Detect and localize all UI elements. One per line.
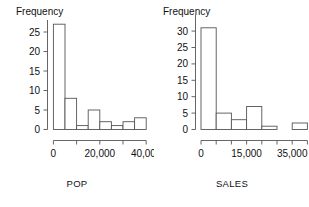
- plot-area-pop: 0 5 10 15 20 25: [0, 0, 154, 170]
- histogram-bar: [77, 126, 89, 130]
- x-axis-ticks-pop: [53, 141, 146, 145]
- y-tick-label: 20: [29, 46, 41, 57]
- x-tick-label: 15,000: [231, 148, 262, 159]
- x-tick-label: 0: [51, 148, 57, 159]
- histogram-bars-pop: [53, 24, 146, 129]
- x-axis-tick-labels-pop: 0 20,000 40,000: [51, 148, 154, 159]
- histogram-bar: [111, 126, 123, 130]
- histogram-bar: [100, 122, 112, 130]
- x-tick-label: 40,000: [131, 148, 154, 159]
- x-tick-label: 35,000: [277, 148, 308, 159]
- histogram-bars-sales: [201, 28, 307, 130]
- x-axis-title-pop: POP: [0, 178, 154, 189]
- y-tick-label: 10: [177, 91, 189, 102]
- histogram-bar: [53, 24, 65, 129]
- y-tick-label: 0: [34, 124, 40, 135]
- y-tick-label: 15: [29, 66, 41, 77]
- x-axis-ticks-sales: [201, 141, 307, 145]
- x-tick-label: 0: [198, 148, 204, 159]
- histogram-bar: [262, 126, 277, 129]
- y-tick-label: 0: [182, 124, 188, 135]
- y-axis-tick-labels-pop: 0 5 10 15 20 25: [29, 27, 41, 136]
- y-tick-label: 10: [29, 85, 41, 96]
- histogram-bar: [292, 123, 307, 130]
- y-tick-label: 30: [177, 26, 189, 37]
- y-tick-label: 5: [34, 105, 40, 116]
- histogram-bar: [247, 107, 262, 130]
- y-axis-ticks-pop: [44, 32, 48, 130]
- histogram-bar: [65, 98, 77, 129]
- histogram-bar: [135, 118, 147, 130]
- y-axis-tick-labels-sales: 0 5 10 15 20 25 30: [177, 26, 189, 135]
- histogram-bar: [123, 122, 135, 130]
- histogram-bar: [231, 120, 246, 130]
- histogram-figure: Frequency 0 5 10 15 20 25: [0, 0, 309, 207]
- chart-panel-pop: Frequency 0 5 10 15 20 25: [0, 0, 154, 207]
- y-tick-label: 20: [177, 58, 189, 69]
- x-tick-label: 20,000: [85, 148, 116, 159]
- histogram-bar: [201, 28, 216, 130]
- x-axis-tick-labels-sales: 0 15,000 35,000: [198, 148, 308, 159]
- y-tick-label: 25: [29, 27, 41, 38]
- chart-panel-sales: Frequency 0 5 10 15 20 25 30: [155, 0, 309, 207]
- x-axis-title-sales: SALES: [155, 178, 309, 189]
- y-tick-label: 15: [177, 75, 189, 86]
- histogram-bar: [216, 113, 231, 129]
- y-axis-ticks-sales: [192, 31, 196, 129]
- y-tick-label: 25: [177, 42, 189, 53]
- plot-area-sales: 0 5 10 15 20 25 30: [155, 0, 309, 170]
- histogram-bar: [88, 110, 100, 130]
- y-tick-label: 5: [182, 108, 188, 119]
